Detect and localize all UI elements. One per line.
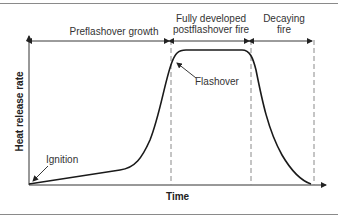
ignition-pointer (33, 166, 48, 181)
phase-label-line: Fully developed (168, 13, 254, 24)
phase-label-decaying: Decaying fire (253, 13, 315, 35)
phase-label-line: Decaying (253, 13, 315, 24)
phase-label-line: postflashover fire (168, 24, 254, 35)
phase-label-line: fire (253, 24, 315, 35)
phase-label-line: Preflashover growth (70, 26, 159, 37)
ignition-label: Ignition (46, 154, 78, 165)
phase-label-fully-developed: Fully developed postflashover fire (168, 13, 254, 35)
y-axis-label: Heat release rate (14, 62, 25, 162)
x-axis-label: Time (166, 191, 189, 202)
flashover-pointer (177, 63, 196, 78)
phase-label-preflashover: Preflashover growth (59, 26, 169, 37)
flashover-label: Flashover (195, 76, 239, 87)
